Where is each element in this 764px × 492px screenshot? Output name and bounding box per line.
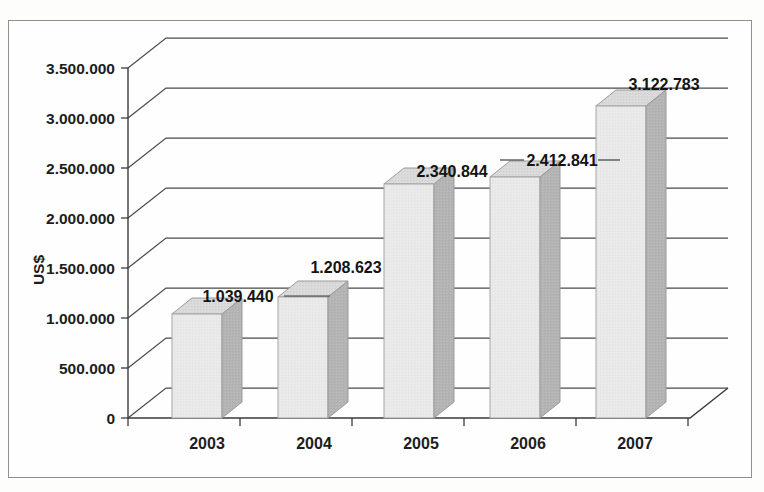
x-tick-label-2005: 2005 xyxy=(403,435,439,452)
bar-front-face-2007 xyxy=(596,106,646,418)
y-tick-label-1500000: 1.500.000 xyxy=(46,260,115,277)
x-axis-ticks xyxy=(128,418,688,426)
y-tick-label-2000000: 2.000.000 xyxy=(46,210,115,227)
y-tick-label-1000000: 1.000.000 xyxy=(46,310,115,327)
x-tick-label-2004: 2004 xyxy=(296,435,332,452)
value-label-2003: 1.039.440 xyxy=(202,288,273,305)
bar-side-face-2007 xyxy=(646,90,666,418)
bar-2007[interactable] xyxy=(596,90,666,418)
y-tick-label-3000000: 3.000.000 xyxy=(46,110,115,127)
y-tick-label-0: 0 xyxy=(106,410,115,427)
bar-2004[interactable] xyxy=(278,281,348,418)
x-tick-label-2006: 2006 xyxy=(510,435,546,452)
bar-front-face-2003 xyxy=(172,314,222,418)
y-axis-title: US$ xyxy=(30,255,47,286)
chart-canvas: 3.500.000 3.000.000 2.500.000 2.000.000 … xyxy=(0,0,764,492)
bar-side-face-2005 xyxy=(434,168,454,418)
value-label-2006: 2.412.841 xyxy=(526,152,597,169)
bar-2003[interactable] xyxy=(172,298,242,418)
value-label-2005: 2.340.844 xyxy=(416,163,487,180)
bar-side-face-2006 xyxy=(540,161,560,418)
column-chart-3d: 3.500.000 3.000.000 2.500.000 2.000.000 … xyxy=(0,0,764,492)
bar-front-face-2004 xyxy=(278,297,328,418)
bar-front-face-2006 xyxy=(490,177,540,418)
bar-side-face-2004 xyxy=(328,281,348,418)
value-label-2004: 1.208.623 xyxy=(310,259,381,276)
y-tick-label-2500000: 2.500.000 xyxy=(46,160,115,177)
bar-2005[interactable] xyxy=(384,168,454,418)
y-tick-label-3500000: 3.500.000 xyxy=(46,60,115,77)
bar-side-face-2003 xyxy=(222,298,242,418)
x-tick-label-2003: 2003 xyxy=(189,435,225,452)
y-axis xyxy=(121,68,128,418)
x-tick-label-2007: 2007 xyxy=(617,435,653,452)
bar-front-face-2005 xyxy=(384,184,434,418)
value-label-2007: 3.122.783 xyxy=(628,76,699,93)
y-tick-label-500000: 500.000 xyxy=(59,360,115,377)
gridline-3500000 xyxy=(128,38,728,68)
bar-2006[interactable] xyxy=(490,161,560,418)
